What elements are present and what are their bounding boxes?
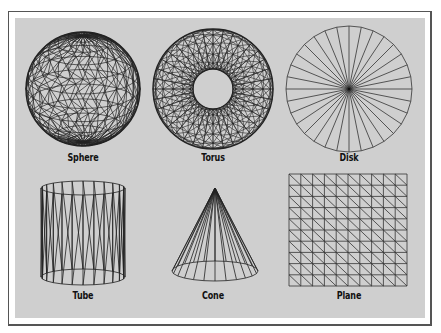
plane-label: Plane xyxy=(309,290,389,301)
cone-wireframe xyxy=(172,188,258,281)
disk-wireframe xyxy=(286,26,412,152)
plane-wireframe xyxy=(289,174,407,286)
disk-label: Disk xyxy=(309,152,389,163)
torus-label: Torus xyxy=(173,152,253,163)
torus-wireframe xyxy=(153,29,273,149)
cone-label: Cone xyxy=(173,290,253,301)
sphere-wireframe xyxy=(26,32,140,146)
wireframe-shapes xyxy=(0,0,441,333)
sphere-label: Sphere xyxy=(43,152,123,163)
tube-wireframe xyxy=(41,181,125,285)
tube-label: Tube xyxy=(43,290,123,301)
